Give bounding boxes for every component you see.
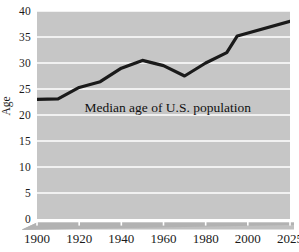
x-axis-tick-mark <box>121 221 123 225</box>
y-axis-tick-label: 25 <box>19 83 31 95</box>
x-axis-tick-mark <box>78 221 80 225</box>
y-axis-tick-label: 40 <box>19 5 31 17</box>
y-axis-tick-label: 35 <box>19 31 31 43</box>
x-axis-tick-mark <box>247 221 249 225</box>
median-age-line-chart: 0510152025303540 Age Median age of U.S. … <box>0 0 299 252</box>
x-axis-bar-shape <box>22 219 294 230</box>
y-axis-tick-label: 10 <box>19 161 31 173</box>
x-axis-tick-labels: 1900192019401960198020002025 <box>0 231 299 251</box>
x-axis-bar <box>22 219 294 230</box>
y-axis-tick-label: 30 <box>19 57 31 69</box>
y-axis-tick-label: 5 <box>25 187 31 199</box>
x-axis-tick-mark <box>289 221 291 225</box>
y-axis-title: Age <box>0 90 12 122</box>
y-axis-tick-label: 15 <box>19 135 31 147</box>
y-axis-tick-label: 20 <box>19 109 31 121</box>
x-axis-tick-label: 2025 <box>260 231 299 247</box>
chart-annotation: Median age of U.S. population <box>84 100 250 116</box>
x-axis-tick-mark <box>36 221 38 225</box>
x-axis-tick-mark <box>163 221 165 225</box>
data-series-line <box>37 21 290 99</box>
x-axis-tick-mark <box>205 221 207 225</box>
plot-area: Median age of U.S. population <box>37 11 290 219</box>
